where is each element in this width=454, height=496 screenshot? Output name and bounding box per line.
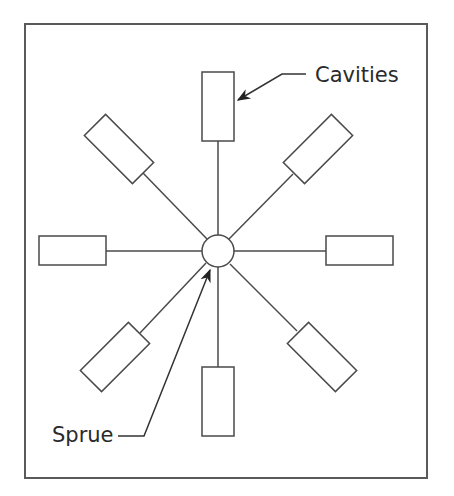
cavity-right: [326, 236, 393, 265]
mold-diagram: Cavities Sprue: [0, 0, 454, 496]
cavity-left: [39, 236, 106, 265]
cavities-leader-line: [238, 74, 306, 100]
runner-top-left: [143, 173, 207, 239]
sprue-hub: [202, 235, 234, 267]
cavity-top-right: [283, 114, 352, 183]
sprue-label: Sprue: [52, 423, 114, 447]
cavity-top: [202, 72, 234, 141]
runner-bottom-left: [140, 263, 206, 333]
runner-bottom-right: [230, 264, 297, 331]
cavity-bottom-right: [287, 322, 356, 391]
runner-top-right: [229, 174, 293, 239]
cavity-bottom-left: [80, 322, 149, 391]
cavities-label: Cavities: [315, 63, 399, 87]
cavity-top-left: [84, 114, 153, 183]
cavity-bottom: [202, 367, 234, 436]
